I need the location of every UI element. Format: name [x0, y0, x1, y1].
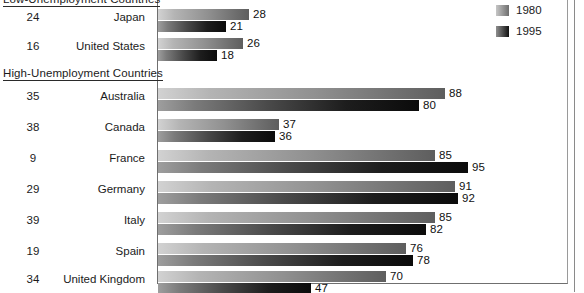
section-header-high-unemployment: High-Unemployment Countries	[3, 67, 163, 81]
row-label-united-kingdom: 34United Kingdom	[0, 273, 150, 289]
bar-value-1980: 85	[439, 212, 452, 223]
bar-value-1980: 76	[410, 243, 423, 254]
bar-value-1995: 82	[430, 224, 443, 235]
row-rank: 35	[20, 90, 46, 102]
row-country-name: United Kingdom	[63, 273, 145, 285]
row-country-name: Japan	[114, 11, 145, 23]
bar-1995-canada	[158, 131, 275, 142]
section-header-low-unemployment: Low-Unemployment Countries	[3, 0, 160, 7]
bar-1980-france	[158, 150, 435, 161]
bar-1980-australia	[158, 88, 445, 99]
row-rank: 24	[20, 11, 46, 23]
row-label-france: 9France	[0, 152, 150, 168]
legend-item-1980: 1980	[496, 2, 574, 18]
bar-1980-spain	[158, 243, 406, 254]
legend-item-1995: 1995	[496, 23, 574, 39]
row-country-name: United States	[76, 40, 145, 52]
bar-1995-spain	[158, 255, 413, 266]
legend-label-1980: 1980	[516, 4, 542, 16]
row-label-spain: 19Spain	[0, 245, 150, 261]
row-country-name: Canada	[105, 121, 145, 133]
row-country-name: France	[109, 152, 145, 164]
row-label-united-states: 16United States	[0, 40, 150, 56]
bar-value-1980: 28	[253, 9, 266, 20]
bar-value-1980: 70	[390, 271, 403, 282]
chart-legend: 1980 1995	[496, 2, 574, 44]
bar-value-1995: 36	[279, 131, 292, 142]
bar-value-1980: 88	[449, 88, 462, 99]
row-label-japan: 24Japan	[0, 11, 150, 27]
bar-1995-italy	[158, 224, 426, 235]
bar-1980-japan	[158, 9, 249, 20]
row-rank: 19	[20, 245, 46, 257]
row-country-name: Italy	[124, 214, 145, 226]
row-rank: 39	[20, 214, 46, 226]
bar-value-1995: 95	[472, 162, 485, 173]
bar-value-1995: 92	[462, 193, 475, 204]
bar-value-1980: 91	[459, 181, 472, 192]
row-label-canada: 38Canada	[0, 121, 150, 137]
row-label-australia: 35Australia	[0, 90, 150, 106]
bar-value-1980: 26	[247, 38, 260, 49]
row-country-name: Spain	[116, 245, 145, 257]
bar-1980-united-states	[158, 38, 243, 49]
bar-value-1995: 18	[221, 50, 234, 61]
bar-value-1995: 47	[315, 283, 328, 293]
section-header-low-label: Low-Unemployment Countries	[3, 0, 160, 7]
row-rank: 38	[20, 121, 46, 133]
section-header-high-label: High-Unemployment Countries	[3, 67, 163, 81]
row-rank: 16	[20, 40, 46, 52]
bar-1995-germany	[158, 193, 458, 204]
bar-1995-japan	[158, 21, 226, 32]
bar-value-1980: 85	[439, 150, 452, 161]
bar-1980-germany	[158, 181, 455, 192]
bar-1980-united-kingdom	[158, 271, 386, 282]
bar-1980-italy	[158, 212, 435, 223]
row-rank: 29	[20, 183, 46, 195]
bar-value-1995: 78	[417, 255, 430, 266]
bar-1995-france	[158, 162, 468, 173]
row-label-germany: 29Germany	[0, 183, 150, 199]
row-label-italy: 39Italy	[0, 214, 150, 230]
bar-1995-united-states	[158, 50, 217, 61]
bar-1995-united-kingdom	[158, 283, 311, 293]
row-rank: 9	[20, 152, 46, 164]
row-country-name: Germany	[98, 183, 145, 195]
bar-value-1995: 80	[423, 100, 436, 111]
bar-value-1980: 37	[283, 119, 296, 130]
bar-1995-australia	[158, 100, 419, 111]
row-rank: 34	[20, 273, 46, 285]
chart-screenshot: Low-Unemployment Countries High-Unemploy…	[0, 0, 584, 293]
legend-label-1995: 1995	[516, 25, 542, 37]
legend-swatch-1980-icon	[496, 5, 509, 16]
bar-value-1995: 21	[230, 21, 243, 32]
legend-swatch-1995-icon	[496, 26, 509, 37]
row-country-name: Australia	[100, 90, 145, 102]
bar-1980-canada	[158, 119, 279, 130]
